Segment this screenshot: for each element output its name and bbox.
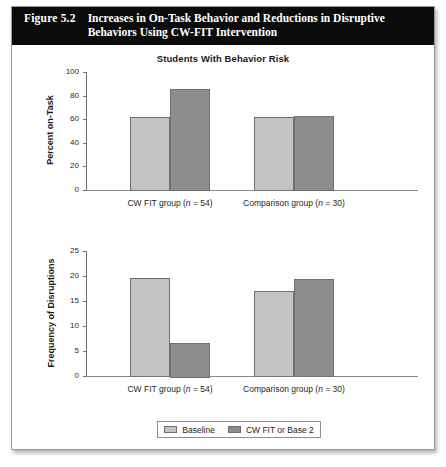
- y-tick-label: 25: [53, 247, 79, 255]
- legend-label-cwfit: CW FIT or Base 2: [246, 425, 314, 435]
- chart-legend: Baseline CW FIT or Base 2: [157, 421, 321, 438]
- y-tick-mark: [83, 72, 86, 73]
- plot-area-on-task: 020406080100Percent on-TaskCW FIT group …: [12, 45, 434, 231]
- y-axis-line: [86, 72, 87, 191]
- x-category-label: Comparison group (n = 30): [214, 198, 374, 208]
- y-tick-mark: [83, 96, 86, 97]
- y-tick-mark: [83, 326, 86, 327]
- bar-cwfit: [294, 116, 334, 191]
- y-tick-label: 60: [53, 115, 79, 123]
- y-tick-label: 20: [53, 162, 79, 170]
- chart-on-task: Students With Behavior Risk 020406080100…: [12, 45, 434, 231]
- y-tick-label: 5: [53, 347, 79, 355]
- y-tick-label: 10: [53, 322, 79, 330]
- bar-baseline: [254, 291, 294, 377]
- legend-label-baseline: Baseline: [182, 425, 215, 435]
- y-tick-mark: [83, 351, 86, 352]
- y-tick-mark: [83, 119, 86, 120]
- y-tick-mark: [83, 190, 86, 191]
- figure-caption: Increases in On-Task Behavior and Reduct…: [88, 12, 424, 39]
- legend-item-cwfit: CW FIT or Base 2: [228, 425, 314, 435]
- y-tick-mark: [83, 251, 86, 252]
- y-tick-mark: [83, 376, 86, 377]
- bar-cwfit: [170, 89, 210, 191]
- figure-frame: Figure 5.2 Increases in On-Task Behavior…: [11, 6, 435, 450]
- y-tick-label: 100: [53, 68, 79, 76]
- figure-number: Figure 5.2: [24, 12, 76, 24]
- y-tick-label: 40: [53, 139, 79, 147]
- legend-swatch-cwfit: [228, 426, 241, 433]
- figure-header: Figure 5.2 Increases in On-Task Behavior…: [12, 7, 434, 45]
- y-axis-title: Percent on-Task: [45, 51, 55, 209]
- y-tick-label: 80: [53, 92, 79, 100]
- y-tick-mark: [83, 276, 86, 277]
- chart-disruptions: 0510152025Frequency of DisruptionsCW FIT…: [12, 231, 434, 403]
- y-axis-title: Frequency of Disruptions: [45, 230, 55, 395]
- legend-item-baseline: Baseline: [164, 425, 215, 435]
- y-tick-label: 0: [53, 186, 79, 194]
- y-axis-line: [86, 251, 87, 377]
- y-tick-mark: [83, 166, 86, 167]
- y-tick-mark: [83, 143, 86, 144]
- y-tick-label: 20: [53, 272, 79, 280]
- y-tick-label: 0: [53, 372, 79, 380]
- bar-cwfit: [294, 279, 334, 377]
- legend-swatch-baseline: [164, 426, 177, 433]
- y-tick-label: 15: [53, 297, 79, 305]
- bar-cwfit: [170, 343, 210, 378]
- bar-baseline: [130, 117, 170, 191]
- x-category-label: Comparison group (n = 30): [214, 384, 374, 394]
- y-tick-mark: [83, 301, 86, 302]
- bar-baseline: [130, 278, 170, 377]
- bar-baseline: [254, 117, 294, 191]
- plot-area-disruptions: 0510152025Frequency of DisruptionsCW FIT…: [12, 231, 434, 403]
